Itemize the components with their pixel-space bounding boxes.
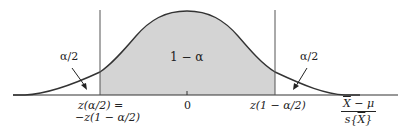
minus-mu: − μ [351, 97, 374, 110]
x-bar: X [343, 97, 351, 110]
left-tail-arrowhead [81, 83, 87, 90]
axis-variable-numerator: X − μ [341, 98, 376, 112]
left-tail-label: α/2 [60, 51, 78, 63]
center-region-label: 1 − α [170, 51, 203, 63]
center-tick-label: 0 [184, 100, 191, 112]
right-critical-label: z(1 − α/2) [250, 100, 306, 112]
s-brace-open: s{ [345, 113, 358, 126]
brace-close: } [365, 113, 372, 126]
right-tail-arrowhead [293, 83, 299, 90]
right-tail-label: α/2 [300, 51, 318, 63]
left-critical-label-line2: −z(1 − α/2) [75, 112, 140, 124]
axis-variable-denominator: s{X} [341, 112, 376, 126]
axis-variable-label: X − μ s{X} [341, 98, 376, 126]
